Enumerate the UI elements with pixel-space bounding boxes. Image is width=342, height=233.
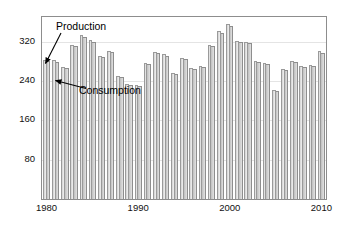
bar-group bbox=[80, 17, 87, 199]
bar-group bbox=[318, 17, 325, 199]
bar-consumption bbox=[257, 62, 261, 199]
y-axis-tick-labels: 80160240320 bbox=[0, 16, 38, 200]
bar-group bbox=[290, 17, 297, 199]
bar-consumption bbox=[239, 42, 243, 199]
bar-consumption bbox=[312, 66, 316, 199]
bar-consumption bbox=[166, 56, 170, 199]
bar-consumption bbox=[83, 37, 87, 199]
bar-group bbox=[61, 17, 68, 199]
bar-group bbox=[70, 17, 77, 199]
bar-group bbox=[116, 17, 123, 199]
y-tick-label: 320 bbox=[1, 36, 35, 46]
bar-consumption bbox=[111, 52, 115, 199]
bar-consumption bbox=[266, 64, 270, 199]
bar-group bbox=[299, 17, 306, 199]
x-tick-label: 1990 bbox=[128, 202, 149, 213]
bar-group bbox=[235, 17, 242, 199]
bar-consumption bbox=[147, 64, 151, 199]
bar-consumption bbox=[157, 53, 161, 199]
bar-consumption bbox=[285, 70, 289, 199]
bar-group bbox=[208, 17, 215, 199]
bar-group bbox=[52, 17, 59, 199]
bar-consumption bbox=[184, 59, 188, 199]
bar-group bbox=[171, 17, 178, 199]
bar-consumption bbox=[47, 61, 51, 199]
bar-group bbox=[263, 17, 270, 199]
bar-group bbox=[98, 17, 105, 199]
bar-group bbox=[89, 17, 96, 199]
bar-group bbox=[135, 17, 142, 199]
bar-group bbox=[125, 17, 132, 199]
bar-consumption bbox=[276, 91, 280, 199]
bar-group bbox=[226, 17, 233, 199]
bar-consumption bbox=[294, 62, 298, 199]
y-tick-label: 240 bbox=[1, 75, 35, 85]
y-tick-label: 80 bbox=[1, 154, 35, 164]
bar-consumption bbox=[221, 33, 225, 199]
bar-group bbox=[162, 17, 169, 199]
figure: 80160240320 1980199020002010 Production … bbox=[0, 0, 342, 233]
bar-group bbox=[153, 17, 160, 199]
bar-consumption bbox=[138, 86, 142, 199]
bar-consumption bbox=[74, 46, 78, 199]
bar-consumption bbox=[102, 57, 106, 199]
bar-group bbox=[281, 17, 288, 199]
x-tick-label: 2000 bbox=[219, 202, 240, 213]
bar-consumption bbox=[175, 74, 179, 199]
bar-series-layer bbox=[42, 17, 326, 199]
bar-consumption bbox=[120, 77, 124, 199]
bar-group bbox=[180, 17, 187, 199]
bar-consumption bbox=[211, 46, 215, 199]
bar-group bbox=[309, 17, 316, 199]
bar-group bbox=[189, 17, 196, 199]
bar-consumption bbox=[230, 26, 234, 199]
bar-group bbox=[107, 17, 114, 199]
x-axis-tick-labels: 1980199020002010 bbox=[0, 202, 342, 218]
bar-consumption bbox=[56, 62, 60, 199]
bar-consumption bbox=[92, 42, 96, 199]
x-tick-label: 2010 bbox=[311, 202, 332, 213]
bar-group bbox=[199, 17, 206, 199]
x-tick-label: 1980 bbox=[36, 202, 57, 213]
bar-group bbox=[144, 17, 151, 199]
bar-group bbox=[244, 17, 251, 199]
bar-group bbox=[217, 17, 224, 199]
bar-group bbox=[43, 17, 50, 199]
bar-group bbox=[254, 17, 261, 199]
bar-consumption bbox=[129, 85, 133, 199]
bar-consumption bbox=[303, 67, 307, 199]
bar-group bbox=[272, 17, 279, 199]
bar-consumption bbox=[248, 43, 252, 199]
bar-consumption bbox=[65, 68, 69, 199]
bar-consumption bbox=[321, 53, 325, 199]
bar-consumption bbox=[193, 69, 197, 199]
plot-area bbox=[41, 16, 327, 200]
bar-consumption bbox=[202, 67, 206, 199]
y-tick-label: 160 bbox=[1, 114, 35, 124]
